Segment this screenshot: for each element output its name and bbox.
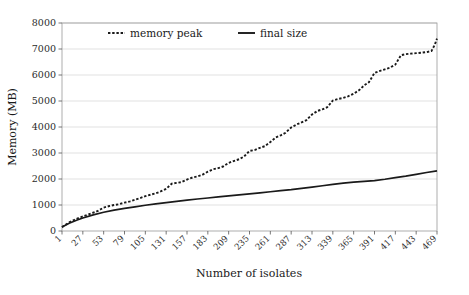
y-tick-label: 1000: [32, 199, 56, 210]
x-tick-label: 443: [399, 233, 418, 252]
x-tick-label: 157: [170, 233, 189, 252]
series-line-memory-peak: [62, 39, 437, 228]
x-tick-label: 365: [336, 233, 355, 252]
y-tick-label: 7000: [32, 43, 56, 54]
y-tick-label: 6000: [32, 69, 56, 80]
y-tick-label: 5000: [32, 95, 56, 106]
x-tick-label: 313: [295, 233, 314, 252]
data-series-layer: [62, 39, 437, 228]
y-tick-marks: [59, 23, 63, 231]
y-tick-labels: 010002000300040005000600070008000: [32, 17, 56, 236]
x-tick-label: 53: [90, 233, 105, 248]
legend-label-final-size: final size: [260, 27, 307, 39]
x-tick-label: 235: [232, 233, 251, 252]
series-line-final-size: [62, 171, 437, 227]
x-tick-label: 79: [111, 233, 126, 248]
x-tick-label: 209: [211, 233, 230, 252]
x-axis-title: Number of isolates: [196, 267, 302, 280]
x-tick-label: 105: [128, 233, 147, 252]
x-tick-label: 391: [357, 233, 376, 252]
x-tick-label: 1: [52, 233, 63, 244]
x-tick-label: 287: [274, 233, 293, 252]
x-tick-label: 417: [378, 233, 397, 252]
x-tick-label: 131: [149, 233, 168, 252]
x-tick-label: 183: [191, 233, 210, 252]
x-tick-label: 339: [316, 233, 335, 252]
y-tick-label: 8000: [32, 17, 56, 28]
chart-canvas: 010002000300040005000600070008000 127537…: [0, 0, 469, 295]
y-tick-label: 4000: [32, 121, 56, 132]
memory-usage-chart: 010002000300040005000600070008000 127537…: [0, 0, 469, 295]
x-tick-label: 261: [253, 233, 272, 252]
y-axis-title: Memory (MB): [6, 88, 19, 166]
x-tick-label: 469: [420, 233, 439, 252]
legend-label-memory-peak: memory peak: [130, 27, 203, 39]
x-tick-label: 27: [69, 233, 84, 248]
y-tick-label: 2000: [32, 173, 56, 184]
x-tick-labels: 1275379105131157183209235261287313339365…: [52, 233, 438, 252]
y-tick-label: 3000: [32, 147, 56, 158]
chart-legend: memory peakfinal size: [108, 27, 307, 39]
grid-lines: [62, 23, 437, 205]
